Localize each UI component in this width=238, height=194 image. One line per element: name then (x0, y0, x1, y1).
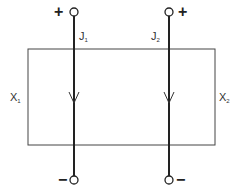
plus-sign-2: + (178, 4, 187, 20)
port-label-2: X2 (219, 92, 230, 104)
terminal-1-bottom (70, 176, 78, 184)
current-label-1: J1 (79, 31, 88, 43)
terminal-2-top (165, 8, 173, 16)
current-label-2: J2 (151, 31, 160, 43)
diagram-canvas (0, 0, 238, 194)
plus-sign-1: + (54, 4, 63, 20)
minus-sign-2: − (176, 172, 185, 188)
minus-sign-1: − (58, 172, 67, 188)
terminal-2-bottom (165, 176, 173, 184)
port-label-1: X1 (10, 92, 21, 104)
terminal-1-top (70, 8, 78, 16)
network-box (28, 49, 215, 145)
